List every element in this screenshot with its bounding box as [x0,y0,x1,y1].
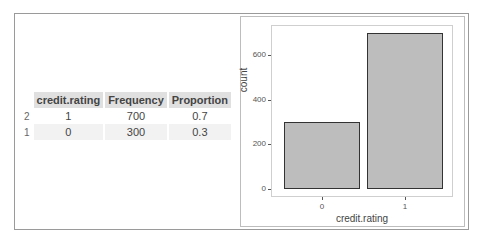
row-name: 2 [22,108,32,124]
cell-frequency: 300 [105,124,167,140]
column-header-frequency: Frequency [105,92,167,108]
bar-credit-rating-1 [367,33,443,189]
table-row: 1 0 300 0.3 [22,124,231,140]
y-tick-mark [268,189,271,190]
column-header-credit-rating: credit.rating [34,92,104,108]
row-name: 1 [22,124,32,140]
cell-proportion: 0.3 [169,124,231,140]
x-tick-mark [405,197,406,200]
table-header-row: credit.rating Frequency Proportion [22,92,231,108]
x-tick-label: 0 [312,202,332,211]
y-axis-title: count [238,60,249,100]
frequency-table: credit.rating Frequency Proportion 2 1 7… [20,92,233,140]
cell-credit-rating: 1 [34,108,104,124]
x-tick-label: 1 [395,202,415,211]
y-tick-mark [268,144,271,145]
cell-proportion: 0.7 [169,108,231,124]
cell-frequency: 700 [105,108,167,124]
y-tick-label: 600 [246,50,266,59]
column-header-proportion: Proportion [169,92,231,108]
y-tick-mark [268,100,271,101]
bar-credit-rating-0 [284,122,360,189]
rowname-header [22,92,32,108]
y-tick-label: 0 [246,184,266,193]
cell-credit-rating: 0 [34,124,104,140]
table-row: 2 1 700 0.7 [22,108,231,124]
x-tick-mark [322,197,323,200]
x-axis-title: credit.rating [271,213,453,224]
y-tick-label: 400 [246,95,266,104]
y-tick-label: 200 [246,139,266,148]
y-tick-mark [268,55,271,56]
